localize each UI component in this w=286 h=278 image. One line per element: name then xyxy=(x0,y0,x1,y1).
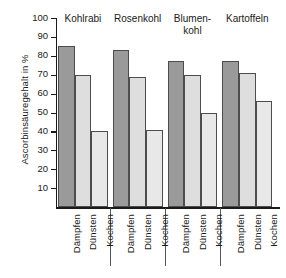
bar-kartoffeln-dämpfen xyxy=(222,61,239,207)
y-axis-tick: 60 xyxy=(51,94,56,95)
bar-kohlrabi-kochen xyxy=(91,131,108,207)
y-axis-tick: 70 xyxy=(51,75,56,76)
y-axis-tick: 10 xyxy=(51,188,56,189)
y-axis-tick-label: 60 xyxy=(37,87,48,98)
bar-rosenkohl-dünsten xyxy=(129,77,146,207)
x-axis-category-label: Dämpfen xyxy=(71,214,82,276)
plot-area: 100908070605040302010 KohlrabiRosenkohlB… xyxy=(56,18,280,207)
y-axis-tick-label: 30 xyxy=(37,144,48,155)
x-axis-line xyxy=(56,207,280,209)
y-axis-tick-label: 100 xyxy=(32,12,48,23)
y-axis-tick-label: 40 xyxy=(37,125,48,136)
y-axis-tick-label: 70 xyxy=(37,68,48,79)
bar-kartoffeln-dünsten xyxy=(239,73,256,207)
y-axis-tick: 80 xyxy=(51,56,56,57)
y-axis-tick-label: 10 xyxy=(37,182,48,193)
bar-kartoffeln-kochen xyxy=(256,101,273,207)
bar-kohlrabi-dämpfen xyxy=(58,46,75,207)
x-axis-category-label: Kochen xyxy=(159,214,170,276)
y-axis-tick: 20 xyxy=(51,169,56,170)
y-axis-title: Ascorbinsäuregehalt in % xyxy=(19,15,30,205)
group-header: Kartoffeln xyxy=(212,13,282,25)
x-axis-category-label: Dämpfen xyxy=(235,214,246,276)
y-axis-tick-label: 50 xyxy=(37,106,48,117)
x-axis-category-label: Dämpfen xyxy=(180,214,191,276)
x-axis-category-label: Dünsten xyxy=(252,214,263,276)
x-axis-category-label: Dämpfen xyxy=(125,214,136,276)
bar-blumenkohl-dünsten xyxy=(184,75,201,207)
y-axis-tick: 90 xyxy=(51,37,56,38)
y-axis-tick: 50 xyxy=(51,113,56,114)
y-axis-tick-label: 20 xyxy=(37,163,48,174)
x-axis-category-label: Kochen xyxy=(213,214,224,276)
bar-rosenkohl-kochen xyxy=(146,130,163,207)
x-axis-category-label: Dünsten xyxy=(87,214,98,276)
x-axis-category-label: Kochen xyxy=(268,214,279,276)
x-axis-category-label: Dünsten xyxy=(197,214,208,276)
y-axis-tick-label: 80 xyxy=(37,49,48,60)
y-axis-tick-label: 90 xyxy=(37,30,48,41)
y-axis-tick: 30 xyxy=(51,150,56,151)
x-axis-category-label: Dünsten xyxy=(142,214,153,276)
bar-rosenkohl-dämpfen xyxy=(113,50,130,207)
x-axis-category-label: Kochen xyxy=(104,214,115,276)
bar-kohlrabi-dünsten xyxy=(75,75,92,207)
y-axis-tick: 40 xyxy=(51,131,56,132)
bar-blumenkohl-kochen xyxy=(201,113,218,208)
bar-blumenkohl-dämpfen xyxy=(168,61,185,207)
bar-chart-figure: Ascorbinsäuregehalt in % 100908070605040… xyxy=(0,0,286,278)
